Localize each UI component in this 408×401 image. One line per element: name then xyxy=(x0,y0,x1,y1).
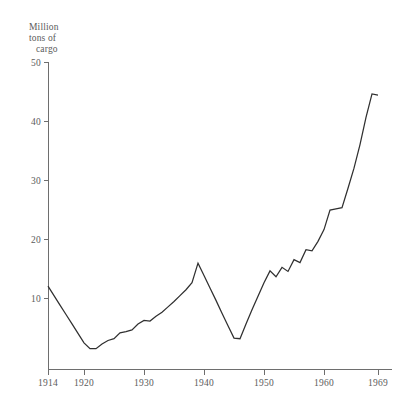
y-tick-label-40: 40 xyxy=(31,117,41,127)
chart-container: Million tons of cargo 50 40 30 20 10 191… xyxy=(0,0,408,401)
cargo-trend-line xyxy=(48,94,378,349)
x-tick-label-1950: 1950 xyxy=(254,378,274,388)
x-tick-label-1920: 1920 xyxy=(74,378,94,388)
x-axis-ticks: 1914 1920 1930 1940 1950 1960 1969 xyxy=(38,370,388,388)
y-tick-label-30: 30 xyxy=(31,176,41,186)
x-tick-label-1940: 1940 xyxy=(194,378,214,388)
y-axis-ticks: 50 40 30 20 10 xyxy=(31,58,48,304)
x-tick-label-1969: 1969 xyxy=(368,378,388,388)
x-tick-label-1914: 1914 xyxy=(38,378,58,388)
y-tick-label-20: 20 xyxy=(31,235,41,245)
x-tick-label-1960: 1960 xyxy=(314,378,334,388)
y-tick-label-10: 10 xyxy=(31,294,41,304)
y-tick-label-50: 50 xyxy=(31,58,41,68)
x-tick-label-1930: 1930 xyxy=(134,378,154,388)
line-chart-plot: 50 40 30 20 10 1914 1920 1930 1940 1950 … xyxy=(0,0,408,401)
